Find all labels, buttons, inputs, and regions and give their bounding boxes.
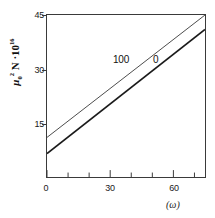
x-axis-tick-marks xyxy=(47,170,194,177)
y-axis-multiply-dot: · xyxy=(8,56,20,60)
x-axis-tick-labels: 0 30 60 xyxy=(0,184,215,198)
x-tick-label-60: 60 xyxy=(169,184,179,193)
chart-figure: μ02 N ·1016 45 30 15 xyxy=(0,0,215,218)
series-line-0 xyxy=(47,29,205,153)
series-line-100 xyxy=(47,15,205,137)
y-axis-ten: 10 xyxy=(8,45,20,56)
series-label-100: 100 xyxy=(113,55,129,65)
x-tick-label-0: 0 xyxy=(44,184,49,193)
y-axis-mu-superscript: 2 xyxy=(8,73,15,76)
y-axis-mu-symbol: μ xyxy=(8,80,20,86)
y-axis-n-symbol: N xyxy=(8,62,20,70)
plot-area: 100 0 xyxy=(46,14,206,178)
series-label-0: 0 xyxy=(153,55,158,65)
x-axis-title: (ω) xyxy=(166,199,180,210)
plot-canvas xyxy=(47,15,205,177)
x-tick-label-30: 30 xyxy=(105,184,115,193)
y-axis-ten-exponent: 16 xyxy=(8,38,15,45)
